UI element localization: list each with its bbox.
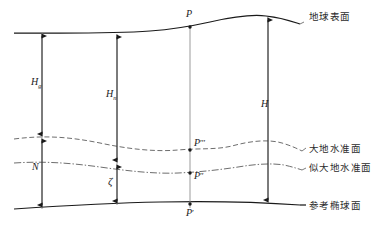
point-label-P3prime: P′′′ (194, 137, 205, 148)
surface-label-earth-surface: 地球表面 (309, 9, 351, 23)
measure-label-geodetic-height: H (261, 98, 268, 109)
reference-ellipsoid-line (14, 202, 300, 209)
point-primes-P3prime: ′′′ (200, 138, 205, 148)
point-name-P: P (186, 8, 192, 19)
measure-symbol-zeta: ζ (108, 175, 112, 187)
geoid-line (14, 137, 302, 151)
point-primes-P1prime: ′ (192, 208, 194, 218)
measure-symbol-H: H (261, 98, 268, 109)
point-primes-P2prime: ′′ (200, 171, 203, 181)
measure-label-geoid-undulation: N (32, 161, 39, 172)
vertical-guide-lines (42, 17, 268, 209)
diagram-canvas (0, 0, 385, 230)
point-label-P2prime: P′′ (194, 170, 203, 181)
measure-subscript-Hg: g (38, 82, 41, 89)
point-marker-P (188, 25, 191, 28)
surface-label-reference-ellipsoid: 参考椭球面 (309, 198, 361, 212)
quasi-geoid-line (14, 162, 302, 173)
earth-surface-line (14, 15, 300, 33)
point-marker-P3prime (188, 148, 191, 151)
measure-label-orthometric-height: Hg (31, 76, 41, 89)
measure-label-normal-height: Hn (106, 88, 116, 101)
measure-symbol-N: N (32, 161, 39, 172)
point-label-P1prime: P′ (186, 207, 194, 218)
surface-label-quasi-geoid: 似大地水准面 (309, 160, 371, 174)
geodetic-height-diagram: 地球表面 大地水准面 似大地水准面 参考椭球面 Hg Hn H N ζ P P′… (0, 0, 385, 230)
measure-subscript-Hn: n (113, 94, 116, 101)
surface-label-geoid: 大地水准面 (309, 141, 361, 155)
point-marker-P1prime (188, 202, 191, 205)
point-marker-P2prime (188, 171, 191, 174)
point-label-P: P (186, 8, 192, 19)
leader-lines (300, 22, 306, 170)
measure-label-height-anomaly: ζ (108, 175, 112, 187)
